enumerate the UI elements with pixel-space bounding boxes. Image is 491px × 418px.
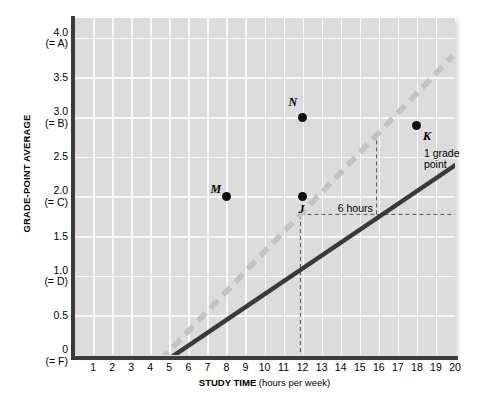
y-tick-1.0: 1.0(= D) xyxy=(0,265,68,288)
y-tick-value: 3.5 xyxy=(0,72,68,84)
y-tick-value: 1.5 xyxy=(0,231,68,243)
x-tick-20: 20 xyxy=(444,361,466,373)
data-point-label-M: M xyxy=(210,182,221,197)
data-point-N xyxy=(298,113,307,122)
data-point-label-J: J xyxy=(299,202,305,217)
data-point-K xyxy=(412,121,421,130)
gridline-vertical xyxy=(131,18,133,355)
data-point-label-K: K xyxy=(423,129,431,144)
series-solid-line xyxy=(148,115,455,355)
data-point-M xyxy=(222,192,231,201)
y-tick-0.5: 0.5 xyxy=(0,310,68,322)
x-axis-title-sub: (hours per week) xyxy=(259,377,330,388)
y-tick-value: 3.0 xyxy=(0,106,68,118)
annotation-rise: 1 gradepoint xyxy=(424,148,460,171)
annotation-rise-line2: point xyxy=(424,159,460,171)
y-tick-4.0: 4.0(= A) xyxy=(0,27,68,50)
y-tick-3.5: 3.5 xyxy=(0,72,68,84)
plot-area xyxy=(74,18,455,355)
x-axis-line xyxy=(71,356,458,360)
gridline-vertical xyxy=(112,18,114,355)
y-tick-grade: (= F) xyxy=(0,356,68,368)
y-tick-grade: (= B) xyxy=(0,118,68,130)
y-tick-grade: (= C) xyxy=(0,197,68,209)
data-point-J xyxy=(298,192,307,201)
y-tick-grade: (= D) xyxy=(0,276,68,288)
y-tick-grade: (= A) xyxy=(0,38,68,50)
x-axis-title: STUDY TIME (hours per week) xyxy=(74,377,455,388)
y-tick-value: 0.5 xyxy=(0,310,68,322)
chart-figure: 4.0(= A)3.53.0(= B)2.52.0(= C)1.51.0(= D… xyxy=(0,0,491,418)
y-tick-2.0: 2.0(= C) xyxy=(0,185,68,208)
y-tick-value: 2.5 xyxy=(0,151,68,163)
annotation-run: 6 hours xyxy=(338,203,373,215)
y-tick-3.0: 3.0(= B) xyxy=(0,106,68,129)
y-tick-1.5: 1.5 xyxy=(0,231,68,243)
y-tick-2.5: 2.5 xyxy=(0,151,68,163)
x-axis-title-main: STUDY TIME xyxy=(199,377,256,388)
data-point-label-N: N xyxy=(289,95,298,110)
y-tick-0: 0(= F) xyxy=(0,344,68,367)
y-tick-value: 0 xyxy=(0,344,68,356)
gridline-vertical xyxy=(93,18,95,355)
y-axis-title: GRADE-POINT AVERAGE xyxy=(21,99,32,249)
y-axis-line xyxy=(71,16,75,360)
